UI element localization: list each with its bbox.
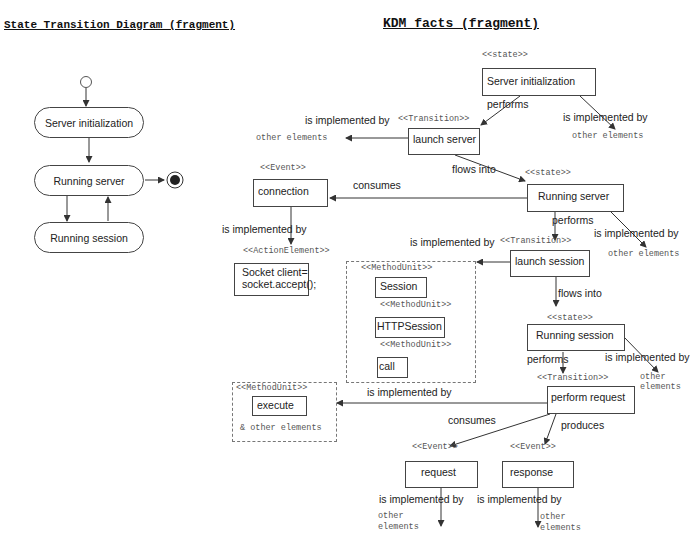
kdm-facts-title: KDM facts (fragment) bbox=[383, 16, 539, 31]
state-running-session: Running session bbox=[34, 222, 144, 253]
execute-other-elements: & other elements bbox=[240, 423, 322, 433]
node-httpsession: HTTPSession bbox=[375, 317, 445, 338]
edge-label-flows-into: flows into bbox=[558, 287, 602, 299]
stereotype-method-unit: <<MethodUnit>> bbox=[361, 263, 432, 273]
stereotype-method-unit: <<MethodUnit>> bbox=[236, 383, 307, 393]
stereotype-state: <<state>> bbox=[482, 50, 528, 60]
state-server-initialization: Server initialization bbox=[34, 107, 144, 138]
edge-label-performs: performs bbox=[552, 214, 593, 226]
elements-label: elements bbox=[378, 522, 419, 532]
edge-label-is-implemented-by: is implemented by bbox=[477, 493, 562, 505]
stereotype-method-unit: <<MethodUnit>> bbox=[380, 340, 451, 350]
state-label: Running session bbox=[50, 232, 128, 244]
node-running-server: Running server bbox=[527, 184, 624, 212]
edge-label-is-implemented-by: is implemented by bbox=[594, 227, 679, 239]
edge-label-is-implemented-by: is implemented by bbox=[367, 386, 452, 398]
node-connection: connection bbox=[253, 179, 328, 207]
edge-label-performs: performs bbox=[527, 353, 568, 365]
edge-label-is-implemented-by: is implemented by bbox=[379, 493, 464, 505]
node-execute: execute bbox=[252, 396, 307, 416]
node-running-session: Running session bbox=[527, 324, 625, 351]
stereotype-state: <<state>> bbox=[547, 313, 593, 323]
stereotype-event: <<Event>> bbox=[412, 442, 458, 452]
state-running-server: Running server bbox=[34, 165, 144, 196]
other-label: other bbox=[640, 372, 666, 382]
other-elements: other elements bbox=[256, 133, 327, 143]
other-elements: other elements bbox=[608, 249, 679, 259]
node-launch-session: launch session bbox=[510, 250, 590, 277]
edge-label-is-implemented-by: is implemented by bbox=[563, 111, 648, 123]
node-server-initialization: Server initialization bbox=[482, 68, 596, 96]
state-label: Server initialization bbox=[45, 117, 133, 129]
state-diagram-title: State Transition Diagram (fragment) bbox=[4, 19, 235, 31]
edge-label-is-implemented-by: is implemented by bbox=[305, 114, 390, 126]
stereotype-transition: <<Transition>> bbox=[398, 114, 469, 124]
node-request: request bbox=[405, 461, 478, 488]
code-line: Socket client= bbox=[242, 266, 304, 278]
stereotype-event: <<Event>> bbox=[510, 442, 556, 452]
edge-label-is-implemented-by: is implemented by bbox=[410, 236, 495, 248]
node-perform-request: perform request bbox=[547, 386, 635, 414]
edge-label-flows-into: flows into bbox=[452, 163, 496, 175]
elements-label: elements bbox=[640, 382, 681, 392]
stereotype-method-unit: <<MethodUnit>> bbox=[380, 300, 451, 310]
stereotype-transition: <<Transition>> bbox=[500, 236, 571, 246]
edge-label-is-implemented-by: is implemented by bbox=[605, 351, 690, 363]
stereotype-action-element: <<ActionElement>> bbox=[243, 246, 330, 256]
stereotype-event: <<Event>> bbox=[260, 163, 306, 173]
stereotype-transition: <<Transition>> bbox=[537, 373, 608, 383]
stereotype-state: <<state>> bbox=[525, 168, 571, 178]
node-socket-accept: Socket client= socket.accept(); bbox=[234, 263, 309, 296]
diagram-canvas: State Transition Diagram (fragment) Serv… bbox=[0, 0, 699, 545]
other-label: other bbox=[378, 511, 404, 521]
edge-label-consumes: consumes bbox=[353, 179, 401, 191]
code-line: socket.accept(); bbox=[242, 278, 304, 290]
node-response: response bbox=[502, 461, 574, 488]
node-session: Session bbox=[375, 277, 427, 298]
other-elements: other elements bbox=[572, 131, 643, 141]
edge-label-consumes: consumes bbox=[448, 414, 496, 426]
edge-label-produces: produces bbox=[561, 419, 604, 431]
node-launch-server: launch server bbox=[408, 128, 480, 155]
elements-label: elements bbox=[540, 523, 581, 533]
edge-label-is-implemented-by: is implemented by bbox=[222, 223, 307, 235]
other-label: other bbox=[540, 512, 566, 522]
edge-label-performs: performs bbox=[487, 98, 528, 110]
node-call: call bbox=[377, 357, 408, 378]
state-label: Running server bbox=[53, 175, 124, 187]
